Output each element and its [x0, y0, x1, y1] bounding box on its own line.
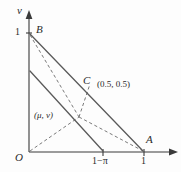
u-axis-arrowhead: [169, 149, 178, 156]
point-B-label: B: [36, 24, 43, 35]
tick-marks-group: [26, 33, 144, 156]
origin-label: O: [15, 152, 23, 163]
point-C-coordinates: (0.5, 0.5): [97, 80, 130, 89]
diagram-canvas: v 1 B C (0.5, 0.5) (μ, v) A O 1−π 1: [0, 0, 181, 172]
x-tick-mid-label: 1−π: [92, 156, 108, 166]
dashed-origin-to-interior: [30, 117, 79, 151]
y-tick-one-label: 1: [15, 27, 20, 37]
solid-lines-group: [30, 34, 143, 151]
dashed-interior-to-A: [79, 117, 143, 151]
dashed-B-to-interior: [30, 35, 79, 117]
interior-point-label: (μ, v): [34, 111, 53, 120]
diagram-svg: [0, 0, 181, 172]
point-C-label: C: [83, 75, 90, 86]
v-axis-arrowhead: [26, 10, 33, 19]
x-tick-one-label: 1: [141, 156, 146, 166]
dashed-interior-to-C: [79, 84, 90, 117]
point-A-label: A: [146, 134, 153, 145]
v-axis-label: v: [17, 5, 22, 16]
